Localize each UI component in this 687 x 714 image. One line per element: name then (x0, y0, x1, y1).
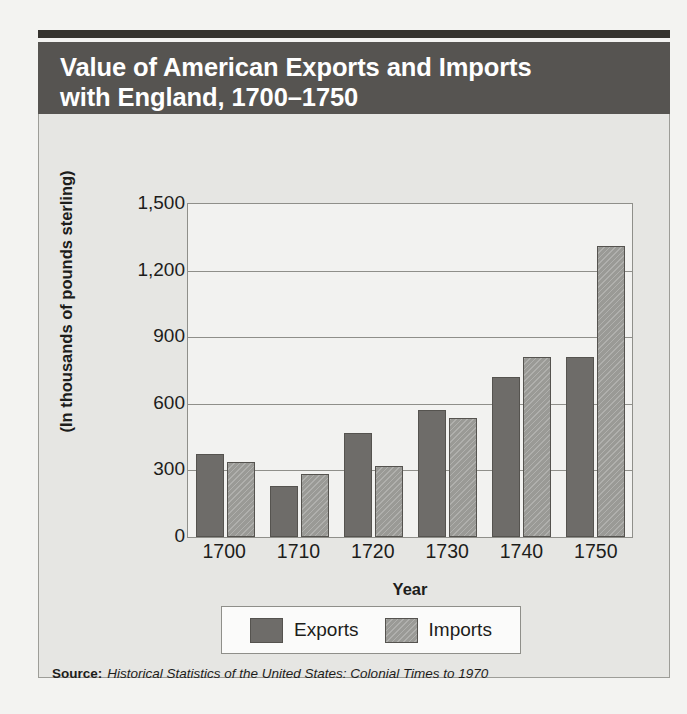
y-axis-ticks: 1,5001,2009006003000 (97, 114, 185, 560)
legend-item-exports: Exports (250, 618, 358, 643)
y-tick-label: 600 (97, 392, 185, 414)
bar-exports-1700 (196, 454, 224, 537)
bar-imports-1720 (375, 466, 403, 537)
top-rule-divider (38, 30, 670, 38)
bar-imports-1710 (301, 474, 329, 537)
title-band: Value of American Exports and Imports wi… (38, 42, 670, 114)
x-tick-label: 1700 (193, 540, 255, 563)
y-tick-label: 300 (97, 458, 185, 480)
legend-swatch-imports (385, 618, 418, 643)
y-tick-label: 1,500 (97, 192, 185, 214)
y-axis-label: (In thousands of pounds sterling) (57, 107, 76, 497)
bar-exports-1710 (270, 486, 298, 537)
bar-group (492, 204, 551, 537)
chart-panel: (In thousands of pounds sterling) 1,5001… (38, 114, 670, 678)
y-tick-label: 0 (97, 525, 185, 547)
bar-imports-1730 (449, 418, 477, 537)
bar-group (418, 204, 477, 537)
bar-imports-1750 (597, 246, 625, 537)
source-title: Historical Statistics of the United Stat… (107, 666, 488, 681)
bar-exports-1750 (566, 357, 594, 537)
legend-swatch-exports (250, 618, 283, 643)
bar-group (344, 204, 403, 537)
source-label: Source: (52, 666, 102, 681)
chart-figure: Value of American Exports and Imports wi… (38, 30, 670, 678)
x-tick-label: 1750 (565, 540, 627, 563)
bar-exports-1730 (418, 410, 446, 537)
x-tick-label: 1740 (490, 540, 552, 563)
bar-imports-1700 (227, 462, 255, 537)
bar-exports-1720 (344, 433, 372, 537)
y-tick-label: 900 (97, 325, 185, 347)
bar-group (270, 204, 329, 537)
bar-groups (188, 204, 632, 537)
y-tick-label: 1,200 (97, 259, 185, 281)
legend-label: Imports (429, 619, 492, 641)
x-tick-label: 1720 (342, 540, 404, 563)
source-note: Source:Historical Statistics of the Unit… (52, 666, 488, 681)
x-tick-label: 1730 (416, 540, 478, 563)
bar-imports-1740 (523, 357, 551, 537)
bar-exports-1740 (492, 377, 520, 537)
chart-legend: ExportsImports (221, 606, 521, 654)
x-axis-ticks: 170017101720173017401750 (187, 540, 633, 563)
x-axis-label: Year (187, 580, 633, 599)
bar-group (566, 204, 625, 537)
bar-group (196, 204, 255, 537)
chart-title: Value of American Exports and Imports wi… (60, 52, 670, 112)
x-tick-label: 1710 (267, 540, 329, 563)
chart-plot-region: (In thousands of pounds sterling) 1,5001… (39, 114, 669, 560)
legend-item-imports: Imports (385, 618, 492, 643)
plot-area (187, 203, 633, 538)
legend-label: Exports (294, 619, 358, 641)
